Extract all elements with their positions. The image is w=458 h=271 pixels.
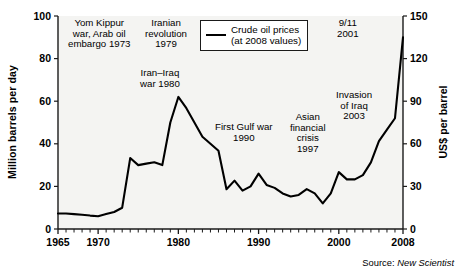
y-right-tick-label: 0 bbox=[410, 223, 416, 235]
x-tick-label: 2000 bbox=[327, 236, 351, 248]
annotation-iran-iraq-war: Iran–Iraq war 1980 bbox=[140, 68, 180, 89]
x-tick-label: 1990 bbox=[247, 236, 271, 248]
annotation-yom-kippur: Yom Kippur war, Arab oil embargo 1973 bbox=[68, 18, 130, 50]
annotation-iranian-revolution: Iranian revolution 1979 bbox=[145, 18, 187, 50]
chart-legend: Crude oil prices (at 2008 values) bbox=[200, 20, 308, 51]
y-axis-left-tick-labels: 020406080100 bbox=[33, 10, 51, 235]
x-tick-label: 1970 bbox=[86, 236, 110, 248]
source-name: New Scientist bbox=[397, 257, 454, 268]
y-left-tick-label: 80 bbox=[39, 52, 51, 64]
x-tick-label: 1965 bbox=[46, 236, 70, 248]
annotation-asian-financial-crisis: Asian financial crisis 1997 bbox=[290, 112, 326, 154]
y-axis-right-title: US$ per barrel bbox=[437, 85, 449, 158]
y-right-tick-label: 120 bbox=[410, 52, 428, 64]
source-credit: Source: New Scientist bbox=[362, 257, 454, 268]
source-prefix: Source: bbox=[362, 257, 394, 268]
annotation-first-gulf-war: First Gulf war 1990 bbox=[215, 122, 273, 143]
x-tick-label: 2008 bbox=[391, 236, 415, 248]
y-left-tick-label: 100 bbox=[33, 10, 51, 22]
legend-line-swatch bbox=[206, 34, 226, 36]
y-axis-left-title: Million barrels per day bbox=[6, 65, 18, 179]
x-axis-tick-labels: 196519701980199020002008 bbox=[46, 236, 415, 248]
y-left-tick-label: 40 bbox=[39, 137, 51, 149]
annotation-invasion-of-iraq: Invasion of Iraq 2003 bbox=[336, 90, 372, 122]
y-right-tick-label: 90 bbox=[410, 95, 422, 107]
y-right-tick-label: 60 bbox=[410, 137, 422, 149]
annotation-september-11: 9/11 2001 bbox=[337, 18, 359, 39]
legend-label: Crude oil prices (at 2008 values) bbox=[231, 24, 301, 46]
y-axis-right-tick-labels: 0306090120150 bbox=[410, 10, 428, 235]
y-left-tick-label: 20 bbox=[39, 180, 51, 192]
x-axis-ticks bbox=[58, 229, 403, 234]
oil-price-chart-figure: 020406080100 0306090120150 1965197019801… bbox=[0, 0, 458, 271]
x-tick-label: 1980 bbox=[167, 236, 191, 248]
y-right-tick-label: 150 bbox=[410, 10, 428, 22]
y-left-tick-label: 60 bbox=[39, 95, 51, 107]
y-right-tick-label: 30 bbox=[410, 180, 422, 192]
y-left-tick-label: 0 bbox=[45, 223, 51, 235]
